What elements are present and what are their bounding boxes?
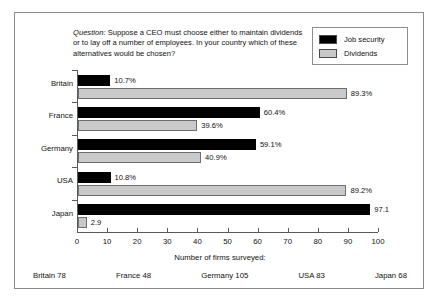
bar-row-germany-job-security: 59.1%	[78, 139, 281, 150]
x-axis: 0 10 20 30 40 50 60 70 80 90 100	[77, 232, 378, 233]
bar-group-usa: USA 10.8% 89.2%	[77, 167, 378, 199]
x-axis-tick	[288, 228, 289, 232]
x-axis-label-60: 60	[253, 237, 262, 246]
bar-row-usa-job-security: 10.8%	[78, 172, 136, 183]
x-axis-tick	[258, 228, 259, 232]
x-axis-tick	[137, 228, 138, 232]
bar-row-japan-job-security: 97.1	[78, 204, 389, 215]
bar-value-france-job-security: 60.4%	[264, 108, 286, 117]
y-axis-tick	[72, 200, 77, 201]
y-axis-tick	[72, 102, 77, 103]
bar-row-japan-dividends: 2.9	[78, 217, 101, 228]
caption-title: Number of firms surveyed:	[15, 253, 425, 262]
bar-row-usa-dividends: 89.2%	[78, 185, 372, 196]
bar-group-germany: Germany 59.1% 40.9%	[77, 135, 378, 167]
firm-count-germany: Germany 105	[201, 271, 248, 280]
bar-value-usa-job-security: 10.8%	[115, 173, 137, 182]
legend-label-job-security: Job security	[344, 35, 385, 44]
bar-france-dividends	[78, 120, 197, 131]
firm-count-france: France 48	[116, 271, 151, 280]
category-label-japan: Japan	[3, 209, 73, 218]
x-axis-tick	[348, 228, 349, 232]
category-label-usa: USA	[3, 176, 73, 185]
x-axis-tick	[318, 228, 319, 232]
x-axis-label-70: 70	[283, 237, 292, 246]
x-axis-label-0: 0	[75, 237, 79, 246]
category-label-britain: Britain	[3, 79, 73, 88]
bar-group-france: France 60.4% 39.6%	[77, 102, 378, 134]
caption-firm-counts: Britain 78 France 48 Germany 105 USA 83 …	[33, 271, 407, 280]
bar-value-japan-dividends: 2.9	[91, 218, 102, 227]
bar-germany-job-security	[78, 139, 256, 150]
bar-value-britain-dividends: 89.3%	[351, 89, 373, 98]
bar-usa-job-security	[78, 172, 111, 183]
question-label: Question:	[73, 28, 106, 37]
bar-value-britain-job-security: 10.7%	[114, 76, 136, 85]
x-axis-tick	[378, 228, 379, 232]
y-axis-tick	[72, 167, 77, 168]
bar-row-germany-dividends: 40.9%	[78, 152, 227, 163]
x-axis-label-80: 80	[313, 237, 322, 246]
bar-value-france-dividends: 39.6%	[201, 121, 223, 130]
firm-count-britain: Britain 78	[33, 271, 66, 280]
bar-britain-dividends	[78, 88, 347, 99]
question-text: Question: Suppose a CEO must choose eith…	[73, 28, 305, 59]
x-axis-tick	[228, 228, 229, 232]
bar-group-britain: Britain 10.7% 89.3%	[77, 70, 378, 102]
legend-item-dividends: Dividends	[319, 46, 402, 60]
firm-count-japan: Japan 68	[375, 271, 407, 280]
x-axis-tick	[197, 228, 198, 232]
y-axis-tick	[72, 70, 77, 71]
x-axis-label-90: 90	[344, 237, 353, 246]
bar-value-germany-dividends: 40.9%	[205, 153, 227, 162]
bar-germany-dividends	[78, 152, 201, 163]
question-body: Suppose a CEO must choose either to main…	[73, 28, 302, 58]
legend-label-dividends: Dividends	[344, 49, 377, 58]
bar-row-britain-job-security: 10.7%	[78, 75, 136, 86]
chart-figure: Question: Suppose a CEO must choose eith…	[14, 12, 424, 289]
x-axis-label-50: 50	[223, 237, 232, 246]
bar-row-britain-dividends: 89.3%	[78, 88, 372, 99]
legend-swatch-icon-dividends	[319, 49, 337, 58]
x-axis-tick	[77, 228, 78, 232]
bar-value-germany-job-security: 59.1%	[260, 140, 282, 149]
bar-britain-job-security	[78, 75, 110, 86]
category-label-france: France	[3, 111, 73, 120]
x-axis-label-20: 20	[133, 237, 142, 246]
bar-france-job-security	[78, 107, 260, 118]
y-axis-tick	[72, 135, 77, 136]
category-label-germany: Germany	[3, 144, 73, 153]
x-axis-tick	[107, 228, 108, 232]
bar-value-usa-dividends: 89.2%	[350, 186, 372, 195]
plot-area: Britain 10.7% 89.3% France 60.4% 39.6%	[77, 70, 378, 232]
x-axis-label-30: 30	[163, 237, 172, 246]
legend-item-job-security: Job security	[319, 32, 402, 46]
bar-usa-dividends	[78, 185, 346, 196]
chart-legend: Job security Dividends	[312, 27, 408, 65]
x-axis-label-10: 10	[103, 237, 112, 246]
bar-japan-job-security	[78, 204, 370, 215]
bar-row-france-job-security: 60.4%	[78, 107, 285, 118]
x-axis-label-40: 40	[193, 237, 202, 246]
x-axis-tick	[167, 228, 168, 232]
firm-count-usa: USA 83	[298, 271, 324, 280]
bar-value-japan-job-security: 97.1	[374, 205, 389, 214]
bar-japan-dividends	[78, 217, 87, 228]
x-axis-label-100: 100	[371, 237, 384, 246]
bar-row-france-dividends: 39.6%	[78, 120, 223, 131]
legend-swatch-icon-job-security	[319, 35, 337, 44]
